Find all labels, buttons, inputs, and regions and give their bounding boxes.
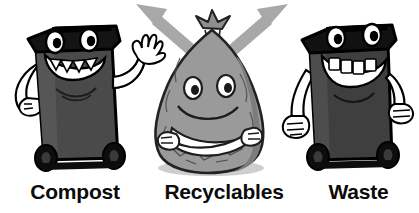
label-compost: Compost	[0, 180, 150, 204]
label-waste: Waste	[298, 180, 419, 204]
label-recyclables: Recyclables	[148, 180, 300, 204]
